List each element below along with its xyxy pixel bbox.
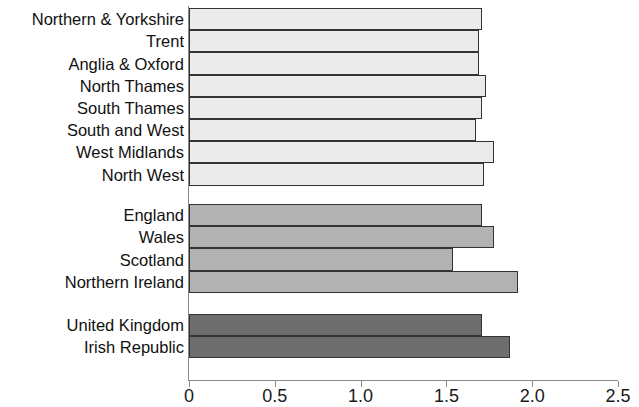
category-label: Wales [139,228,184,246]
bar-row [189,314,482,336]
bar [189,119,476,141]
category-label: Irish Republic [84,338,184,356]
category-label: North West [102,166,184,184]
bar [189,314,482,336]
bar-chart: 00.51.01.52.02.5 Northern & YorkshireTre… [0,0,639,407]
category-label: England [123,206,184,224]
bar-row [189,336,510,358]
bar-row [189,75,486,97]
category-label: Northern Ireland [65,273,184,291]
bar [189,248,453,270]
bar [189,336,510,358]
bar-row [189,163,484,185]
bar [189,97,482,119]
category-label: Scotland [120,251,184,269]
bar [189,141,494,163]
x-tick-label: 1.5 [434,386,459,406]
bar-row [189,119,476,141]
bar [189,204,482,226]
bar-row [189,30,479,52]
category-label: West Midlands [76,143,184,161]
x-tick-label: 0 [184,386,194,406]
plot-area: 00.51.01.52.02.5 Northern & YorkshireTre… [0,0,639,407]
bar [189,226,494,248]
bar-row [189,97,482,119]
bar [189,75,486,97]
bar-row [189,271,518,293]
bar-row [189,141,494,163]
bar [189,52,479,74]
category-label: United Kingdom [67,316,184,334]
category-label: Anglia & Oxford [68,55,184,73]
x-tick-label: 2.5 [605,386,630,406]
bar-row [189,204,482,226]
bar [189,8,482,30]
bar-row [189,52,479,74]
category-label: Northern & Yorkshire [32,10,184,28]
x-tick-label: 2.0 [520,386,545,406]
category-label: Trent [146,32,184,50]
bar [189,30,479,52]
category-label: South and West [67,121,184,139]
x-axis-line [188,380,618,381]
category-label: South Thames [77,99,184,117]
bar-row [189,248,453,270]
x-tick-label: 1.0 [348,386,373,406]
x-tick-label: 0.5 [262,386,287,406]
bar-row [189,8,482,30]
bar [189,163,484,185]
bar-row [189,226,494,248]
bar [189,271,518,293]
category-label: North Thames [80,77,184,95]
